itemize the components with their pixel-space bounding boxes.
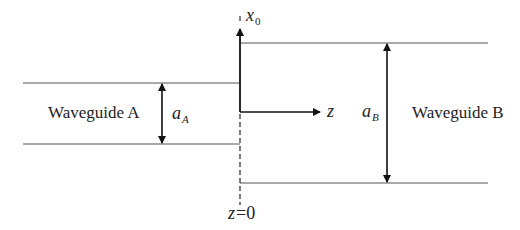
junction-label-eq: =0 [236, 203, 255, 223]
z-axis-label: z [326, 101, 334, 121]
waveguide-junction-diagram: Waveguide A Waveguide B a A a B z x 0 z … [0, 0, 520, 230]
junction-label-var: z [227, 203, 235, 223]
width-b-symbol: a [362, 101, 371, 121]
width-a-symbol: a [172, 103, 181, 123]
x0-axis-subscript: 0 [255, 15, 261, 27]
waveguide-b-label: Waveguide B [412, 103, 504, 122]
waveguide-a-label: Waveguide A [48, 103, 140, 122]
width-a-subscript: A [181, 113, 189, 125]
x0-axis-symbol: x [245, 5, 254, 25]
width-b-subscript: B [372, 111, 379, 123]
